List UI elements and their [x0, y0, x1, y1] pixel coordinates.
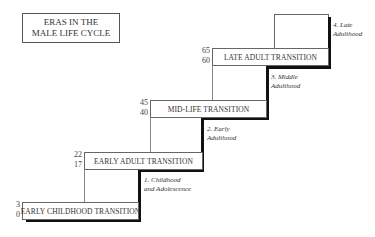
transition-label: MID-LIFE TRANSITION — [168, 105, 250, 114]
era-label-line: 4. Late — [333, 21, 362, 30]
transition-mid-life: MID-LIFE TRANSITION — [150, 100, 267, 118]
era-label-line: 2. Early — [207, 125, 236, 134]
transition-label: EARLY CHILDHOOD TRANSITION — [21, 207, 141, 216]
transition-early-adult: EARLY ADULT TRANSITION — [84, 152, 203, 170]
era-3-left-line — [212, 65, 213, 101]
age-label: 22 — [66, 150, 82, 159]
age-label: 40 — [132, 108, 148, 117]
age-label: 17 — [66, 160, 82, 169]
age-label: 65 — [194, 46, 210, 55]
diagram-title: ERAS IN THE MALE LIFE CYCLE — [22, 13, 120, 43]
transition-late-adult: LATE ADULT TRANSITION — [212, 48, 329, 66]
transition-label: EARLY ADULT TRANSITION — [94, 157, 193, 166]
era-label-3: 3. Middle Adulthood — [271, 73, 300, 90]
age-label: 0 — [4, 210, 20, 219]
era-label-line: 3. Middle — [271, 73, 300, 82]
era-label-2: 2. Early Adulthood — [207, 125, 236, 142]
late-adulthood-box — [274, 14, 329, 49]
title-line-2: MALE LIFE CYCLE — [23, 28, 119, 39]
transition-early-childhood: EARLY CHILDHOOD TRANSITION — [22, 202, 139, 220]
era-label-4: 4. Late Adulthood — [333, 21, 362, 38]
title-line-1: ERAS IN THE — [23, 17, 119, 28]
age-label: 45 — [132, 98, 148, 107]
era-label-line: and Adolescence — [144, 185, 191, 194]
era-label-1: 1. Childhood and Adolescence — [144, 176, 191, 193]
era-2-left-line — [150, 117, 151, 152]
era-label-line: 1. Childhood — [144, 176, 191, 185]
era-label-line: Adulthood — [271, 82, 300, 91]
step-shadow-4 — [266, 66, 331, 69]
era-1-left-line — [84, 169, 85, 203]
age-label: 3 — [4, 200, 20, 209]
age-label: 60 — [194, 56, 210, 65]
era-label-line: Adulthood — [333, 30, 362, 39]
transition-label: LATE ADULT TRANSITION — [224, 53, 317, 62]
era-label-line: Adulthood — [207, 134, 236, 143]
